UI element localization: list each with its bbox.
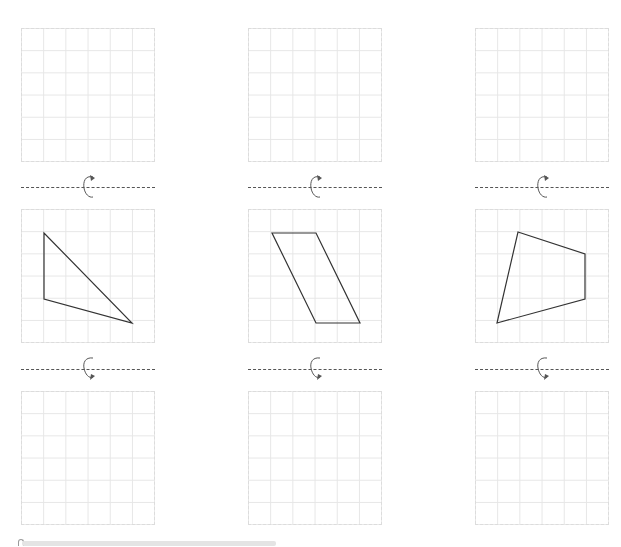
top-empty-grid-2 (248, 28, 382, 162)
rotate-clockwise-up-icon (81, 174, 97, 200)
parallelogram-shape (248, 209, 382, 343)
top-empty-grid-3 (475, 28, 609, 162)
top-empty-grid-1 (21, 28, 155, 162)
bottom-empty-grid-1 (21, 391, 155, 525)
shape-grid-3 (475, 209, 609, 343)
scrollbar-thumb[interactable] (22, 541, 276, 546)
shape-grid-2 (248, 209, 382, 343)
rotate-clockwise-up-icon (308, 174, 324, 200)
rotate-clockwise-down-icon (535, 355, 551, 381)
rotate-clockwise-down-icon (308, 355, 324, 381)
triangle-shape (21, 209, 155, 343)
quadrilateral-shape (475, 209, 609, 343)
bottom-empty-grid-3 (475, 391, 609, 525)
bottom-empty-grid-2 (248, 391, 382, 525)
worksheet-page (0, 0, 621, 547)
horizontal-scrollbar[interactable] (18, 539, 278, 547)
rotate-clockwise-down-icon (81, 355, 97, 381)
shape-grid-1 (21, 209, 155, 343)
rotate-clockwise-up-icon (535, 174, 551, 200)
